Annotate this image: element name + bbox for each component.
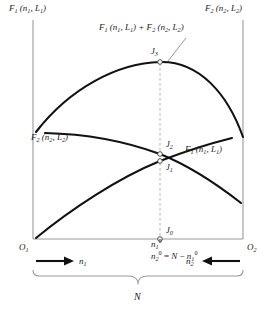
label-origin-left: O1 — [19, 243, 29, 252]
label-n1-arrow: n1 — [79, 257, 87, 266]
label-f2-curve: F2 (n2, L2) — [31, 133, 68, 142]
label-f1-curve-text: F1 (n1, L1) — [185, 144, 222, 154]
label-total-n: N — [134, 292, 141, 302]
label-j2-text: J2 — [166, 139, 173, 149]
label-optimum-values: n10 n20 = N − n10 — [151, 239, 198, 262]
label-f2-top-right: F2 (n2, L2) — [205, 4, 242, 13]
n1-direction-arrow — [36, 257, 74, 266]
label-sum-curve: F1 (n1, L1) + F2 (n2, L2) — [99, 23, 184, 32]
label-n2-equation: n20 = N − n10 — [151, 251, 198, 262]
sum-curve — [36, 62, 243, 137]
label-j3-text: J3 — [151, 46, 158, 56]
label-f2-top-right-text: F2 (n2, L2) — [205, 3, 242, 13]
point-j1 — [158, 159, 163, 164]
sum-label-leader-line — [168, 38, 186, 61]
label-j2: J2 — [166, 140, 173, 149]
diagram-canvas — [0, 0, 277, 313]
label-j1-text: J1 — [166, 162, 173, 172]
figure-container: F1 (n1, L1) F2 (n2, L2) F1 (n1, L1) + F2… — [0, 0, 277, 313]
label-total-n-text: N — [134, 291, 141, 302]
point-j3 — [158, 60, 163, 65]
n2-direction-arrow — [202, 257, 240, 266]
label-f1-top-left-text: F1 (n1, L1) — [9, 3, 46, 13]
label-origin-right: O2 — [247, 243, 257, 252]
label-origin-left-text: O1 — [19, 242, 29, 252]
label-n1-zero-text: n10 — [151, 239, 162, 249]
label-j1: J1 — [166, 163, 173, 172]
total-span-brace — [33, 270, 243, 284]
label-j0-text: J0 — [166, 225, 173, 235]
label-n1-zero: n10 — [151, 239, 198, 250]
label-n2-equation-text: n20 = N − n10 — [151, 251, 198, 261]
label-j0: J0 — [166, 226, 173, 235]
label-j3: J3 — [151, 47, 158, 56]
label-origin-right-text: O2 — [247, 242, 257, 252]
label-f1-top-left: F1 (n1, L1) — [9, 4, 46, 13]
label-n1-arrow-text: n1 — [79, 256, 87, 266]
label-f1-curve: F1 (n1, L1) — [185, 145, 222, 154]
label-f2-curve-text: F2 (n2, L2) — [31, 132, 68, 142]
label-sum-curve-text: F1 (n1, L1) + F2 (n2, L2) — [99, 22, 184, 32]
point-j2 — [158, 152, 163, 157]
